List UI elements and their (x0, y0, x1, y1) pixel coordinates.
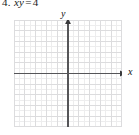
problem-expression-left: xy (14, 0, 24, 8)
y-axis-arrowhead (65, 20, 71, 24)
axes (14, 20, 122, 127)
y-axis-label: y (61, 8, 65, 19)
coordinate-plane[interactable] (14, 20, 122, 127)
x-axis-arrowhead (120, 71, 122, 77)
graph-figure: 4. xy=4 (0, 0, 139, 135)
problem-expression-right: 4 (33, 0, 39, 8)
problem-number: 4. (2, 0, 11, 8)
problem-label: 4. xy=4 (2, 0, 39, 8)
problem-operator: = (24, 0, 33, 8)
x-axis-label: x (128, 66, 132, 77)
